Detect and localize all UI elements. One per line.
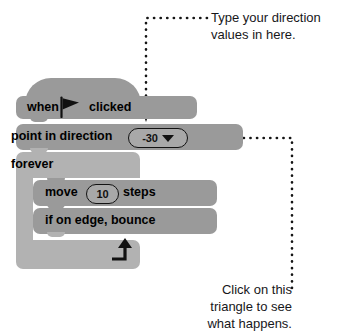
green-flag-icon	[58, 96, 82, 118]
steps-label: steps	[123, 185, 156, 199]
bounce-block-notch	[47, 232, 65, 237]
move-label: move	[45, 185, 78, 199]
clicked-label: clicked	[89, 100, 131, 114]
loop-arrow-icon	[110, 238, 136, 262]
direction-dropdown-field[interactable]: -30	[128, 128, 188, 148]
steps-value: 10	[96, 188, 108, 200]
if-on-edge-bounce-label: if on edge, bounce	[45, 213, 155, 227]
forever-label: forever	[11, 157, 53, 171]
point-block-notch	[30, 148, 48, 153]
forever-left-spine	[16, 172, 33, 248]
annotation-top: Type your direction values in here.	[211, 9, 338, 43]
steps-number-field[interactable]: 10	[86, 184, 119, 204]
annotation-bottom: Click on this triangle to see what happe…	[180, 281, 292, 332]
direction-value: -30	[142, 132, 157, 144]
scratch-script-diagram: when clicked point in direction -30 fore…	[0, 0, 338, 333]
hat-block-notch	[30, 117, 48, 122]
forever-inner-notch	[47, 178, 65, 183]
when-label: when	[27, 100, 59, 114]
move-block-notch	[47, 204, 65, 209]
point-in-direction-label: point in direction	[11, 129, 112, 143]
dropdown-triangle-icon[interactable]	[162, 135, 174, 142]
